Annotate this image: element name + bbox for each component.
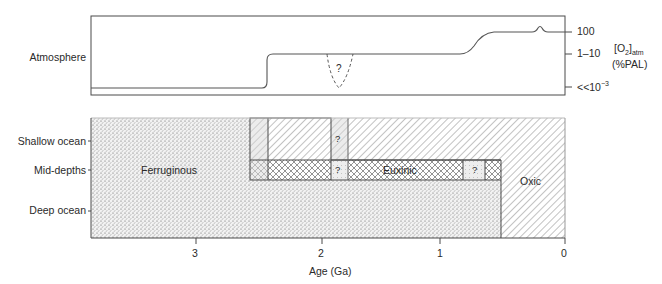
shallow-uncertain-early bbox=[250, 118, 268, 160]
o2-tick-label-1-10: 1–10 bbox=[577, 47, 600, 59]
row-label-atmosphere: Atmosphere bbox=[0, 51, 86, 63]
x-axis-title: Age (Ga) bbox=[309, 265, 352, 277]
x-tick-label-2: 2 bbox=[318, 247, 324, 259]
atmosphere-panel bbox=[91, 16, 572, 95]
oxic-deep-region bbox=[501, 160, 565, 238]
atmosphere-frame bbox=[91, 16, 565, 95]
o2-tick-low-exponent: −3 bbox=[601, 80, 609, 87]
region-label-oxic: Oxic bbox=[520, 175, 541, 187]
mid-euxinic-uncertain-early bbox=[250, 160, 268, 180]
x-tick-label-0: 0 bbox=[561, 247, 567, 259]
row-label-mid-depths: Mid-depths bbox=[0, 164, 86, 176]
x-tick-label-1: 1 bbox=[437, 247, 443, 259]
region-label-euxinic: Euxinic bbox=[383, 164, 417, 176]
region-label-ferruginous: Ferruginous bbox=[141, 164, 197, 176]
ocean-panel bbox=[88, 118, 565, 244]
o2-axis-title: [O2]atm bbox=[614, 42, 644, 56]
question-mark-mid-2: ? bbox=[472, 164, 477, 175]
mid-euxinic-early bbox=[268, 160, 331, 180]
row-label-deep-ocean: Deep ocean bbox=[0, 204, 86, 216]
o2-tick-low-text: <<10 bbox=[577, 81, 601, 93]
x-tick-label-3: 3 bbox=[192, 247, 198, 259]
row-label-shallow-ocean: Shallow ocean bbox=[0, 135, 86, 147]
o2-dip-question-mark: ? bbox=[336, 63, 342, 74]
o2-tick-label-low: <<10−3 bbox=[577, 80, 609, 93]
oxic-shallow-region bbox=[250, 118, 565, 160]
o2-axis-atm: atm bbox=[632, 49, 644, 56]
o2-axis-unit: (%PAL) bbox=[612, 58, 647, 70]
question-mark-shallow: ? bbox=[335, 133, 340, 144]
o2-tick-label-100: 100 bbox=[577, 25, 595, 37]
o2-axis-bracket: [O bbox=[614, 42, 625, 54]
question-mark-mid-1: ? bbox=[335, 164, 340, 175]
mid-euxinic-late bbox=[485, 160, 501, 180]
redox-diagram bbox=[0, 0, 662, 284]
